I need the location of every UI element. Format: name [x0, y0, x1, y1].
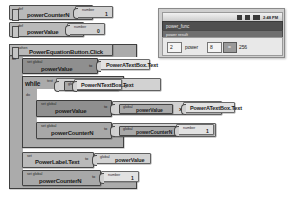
block-set-global-powercountern-reset[interactable]: set global powerCounterN to	[22, 170, 101, 186]
value-plug	[92, 155, 97, 166]
global-init-keyword-2: def	[18, 25, 23, 29]
global-init-name-1: powerCounterN	[27, 12, 69, 18]
setter-name-4: PowerLabel.Text	[35, 159, 79, 165]
value-plug	[110, 126, 115, 137]
block-number-3[interactable]: number 1	[176, 124, 214, 135]
power-label: power	[185, 45, 198, 50]
block-set-global-powervalue-loop[interactable]: set global powerValue to	[36, 100, 112, 117]
global-init-keyword-1: def	[18, 8, 23, 12]
value-plug	[96, 61, 101, 72]
value-plug	[73, 8, 78, 19]
number-value-4: 1	[131, 176, 134, 181]
block-event-header[interactable]: when PowerEquationButton.Click	[9, 44, 113, 56]
block-number-4[interactable]: number 1	[101, 171, 139, 182]
setter-keyword-3: set global	[41, 125, 56, 129]
status-time: 2:48 PM	[263, 16, 278, 20]
emulator-sub-title: power result	[166, 33, 188, 37]
setter-keyword-2: set global	[41, 103, 56, 107]
powern-textbox[interactable]: 8	[207, 42, 222, 53]
global-init-name-2: powerValue	[27, 29, 58, 35]
setter-name-5: powerCounterN	[39, 178, 81, 184]
event-do-label: do	[12, 58, 16, 62]
while-test-label: test	[47, 80, 53, 84]
emulator-app-body: 2 power 8 = 256	[162, 37, 283, 56]
battery-icon	[253, 15, 260, 20]
signal-icon	[245, 15, 250, 20]
android-emulator-panel: 2:48 PM power_func power result 2 power …	[158, 8, 285, 58]
block-getter-global-powervalue-loop[interactable]: global powerValue	[119, 104, 173, 114]
value-plug	[181, 104, 186, 115]
emulator-app-title: power_func	[166, 25, 189, 30]
setter-name-2: powerValue	[55, 108, 86, 114]
component-getter-2: PowerNTextBox.Text	[81, 83, 133, 89]
setter-to-label-3: to	[104, 127, 107, 131]
block-powera-textbox-text-2[interactable]: PowerATextBox.Text	[183, 102, 235, 113]
number-value-1: 1	[105, 12, 108, 17]
value-plug	[110, 104, 115, 115]
block-set-global-powercountern-loop[interactable]: set global powerCounterN to	[36, 122, 112, 139]
blocks-editor-canvas: def powerCounterN as number 1 def powerV…	[0, 0, 291, 205]
component-getter-1: PowerATextBox.Text	[106, 63, 158, 69]
component-getter-3: PowerATextBox.Text	[190, 106, 242, 112]
while-keyword: while	[25, 81, 40, 88]
getter-keyword: global	[123, 128, 133, 132]
event-name: PowerEquationButton.Click	[29, 49, 103, 55]
setter-keyword-1: set global	[27, 61, 42, 65]
getter-keyword: global	[100, 156, 110, 160]
sync-icon	[237, 15, 242, 20]
number-type-label-1: number	[82, 9, 94, 13]
setter-to-label-1: to	[89, 64, 92, 68]
setter-name-1: powerValue	[41, 66, 72, 72]
number-type-label-3: number	[183, 127, 195, 131]
getter-name: powerValue	[136, 108, 163, 113]
block-getter-global-powervalue-label[interactable]: global powerValue	[94, 153, 151, 164]
setter-to-label-4: to	[85, 157, 88, 161]
number-type-label-4: number	[108, 174, 120, 178]
block-getter-global-powercountern-add[interactable]: global powerCounterN	[119, 126, 177, 136]
value-plug	[54, 81, 59, 92]
value-plug	[65, 25, 70, 36]
block-set-global-powervalue-init[interactable]: set global powerValue to	[22, 58, 98, 74]
value-plug	[99, 173, 104, 184]
block-number-1[interactable]: number 1	[75, 6, 113, 18]
block-number-2[interactable]: number 0	[67, 23, 105, 35]
number-value-3: 1	[206, 129, 209, 134]
setter-name-3: powerCounterN	[51, 130, 93, 136]
setter-keyword-5: set global	[27, 173, 42, 177]
power-equation-button[interactable]: =	[223, 42, 237, 53]
getter-name: powerValue	[115, 158, 145, 164]
setter-to-label-5: to	[92, 175, 95, 179]
result-value: 256	[239, 45, 247, 50]
while-do-label: do	[26, 94, 30, 98]
number-type-label-2: number	[74, 26, 86, 30]
powera-textbox-value: 2	[170, 45, 173, 50]
getter-keyword: global	[123, 106, 133, 110]
value-plug	[174, 126, 179, 137]
setter-to-label-2: to	[104, 105, 107, 109]
block-powern-textbox-text[interactable]: PowerNTextBox.Text	[74, 79, 122, 90]
value-plug	[72, 81, 77, 92]
powern-textbox-value: 8	[210, 45, 213, 50]
powera-textbox[interactable]: 2	[167, 42, 182, 53]
power-equation-button-label: =	[228, 45, 231, 50]
setter-keyword-4: set	[27, 155, 32, 159]
event-keyword: when	[19, 47, 28, 51]
block-powera-textbox-text-1[interactable]: PowerATextBox.Text	[98, 59, 150, 70]
getter-name: powerCounterN	[136, 130, 172, 135]
block-set-powerlabel-text[interactable]: set PowerLabel.Text to	[22, 152, 94, 168]
number-value-2: 0	[97, 29, 100, 34]
